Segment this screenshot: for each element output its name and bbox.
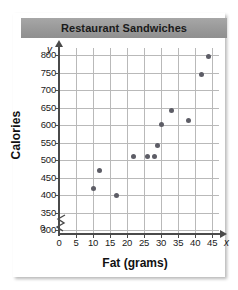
gridline-horizontal <box>59 143 219 144</box>
y-axis-line <box>58 46 60 236</box>
data-point <box>169 108 174 113</box>
x-tick-mark <box>127 234 128 238</box>
x-tick-label: 10 <box>84 237 102 248</box>
gridline-vertical <box>110 48 111 234</box>
gridline-horizontal <box>59 55 219 56</box>
gridline-horizontal <box>59 73 219 74</box>
y-tick-mark <box>55 160 59 161</box>
x-tick-label: 0 <box>50 237 68 248</box>
x-tick-label: 20 <box>118 237 136 248</box>
x-tick-label: 40 <box>186 237 204 248</box>
x-tick-label: 30 <box>152 237 170 248</box>
gridline-horizontal <box>59 108 219 109</box>
x-tick-label: 35 <box>169 237 187 248</box>
gridline-vertical <box>76 48 77 234</box>
data-point <box>186 118 191 123</box>
data-point <box>145 154 150 159</box>
y-tick-mark <box>55 143 59 144</box>
data-point <box>155 143 160 148</box>
y-tick-mark <box>55 178 59 179</box>
data-point <box>152 154 157 159</box>
gridline-vertical <box>212 48 213 234</box>
gridline-horizontal <box>59 195 219 196</box>
y-tick-mark <box>55 55 59 56</box>
x-tick-mark <box>76 234 77 238</box>
gridline-horizontal <box>59 230 219 231</box>
y-axis-variable-letter: y <box>47 44 52 55</box>
x-tick-label: 5 <box>67 237 85 248</box>
y-tick-mark <box>55 230 59 231</box>
y-tick-mark <box>55 90 59 91</box>
y-tick-mark <box>55 213 59 214</box>
gridline-vertical <box>178 48 179 234</box>
chart-page: Restaurant Sandwiches 300350400450500550… <box>0 0 238 290</box>
data-point <box>114 193 119 198</box>
x-tick-mark <box>161 234 162 238</box>
gridline-vertical <box>161 48 162 234</box>
y-tick-label: 650 <box>28 102 56 113</box>
y-tick-label: 500 <box>28 154 56 165</box>
x-tick-mark <box>93 234 94 238</box>
gridline-horizontal <box>59 90 219 91</box>
y-tick-mark <box>55 108 59 109</box>
y-axis-arrow-icon <box>55 40 63 47</box>
x-tick-mark <box>178 234 179 238</box>
gridline-horizontal <box>59 213 219 214</box>
y-tick-label: 750 <box>28 67 56 78</box>
x-tick-label: 45 <box>203 237 221 248</box>
data-point <box>91 186 96 191</box>
x-tick-mark <box>144 234 145 238</box>
x-tick-label: 25 <box>135 237 153 248</box>
x-tick-mark <box>212 234 213 238</box>
y-tick-label: 450 <box>28 172 56 183</box>
y-tick-mark <box>55 125 59 126</box>
y-tick-mark <box>55 195 59 196</box>
x-axis-line <box>59 233 223 235</box>
x-axis-title: Fat (grams) <box>50 256 220 270</box>
gridline-vertical <box>144 48 145 234</box>
gridline-vertical <box>195 48 196 234</box>
x-tick-mark <box>195 234 196 238</box>
y-tick-label: 400 <box>28 189 56 200</box>
data-point <box>131 154 136 159</box>
data-point <box>97 168 102 173</box>
origin-label: 0 <box>40 222 45 233</box>
x-tick-mark <box>110 234 111 238</box>
gridline-horizontal <box>59 178 219 179</box>
data-point <box>206 54 211 59</box>
y-tick-label: 700 <box>28 84 56 95</box>
gridline-horizontal <box>59 125 219 126</box>
gridline-vertical <box>127 48 128 234</box>
y-tick-label: 550 <box>28 137 56 148</box>
data-point <box>199 72 204 77</box>
x-axis-tick-labels: 051015202530354045 <box>0 237 238 251</box>
gridline-horizontal <box>59 160 219 161</box>
y-tick-mark <box>55 73 59 74</box>
y-tick-label: 600 <box>28 119 56 130</box>
y-axis-title: Calories <box>9 95 23 175</box>
x-axis-variable-letter: x <box>224 237 229 248</box>
data-point <box>159 122 164 127</box>
gridline-vertical <box>93 48 94 234</box>
plot-area <box>59 48 219 234</box>
x-tick-label: 15 <box>101 237 119 248</box>
y-tick-label: 350 <box>28 207 56 218</box>
